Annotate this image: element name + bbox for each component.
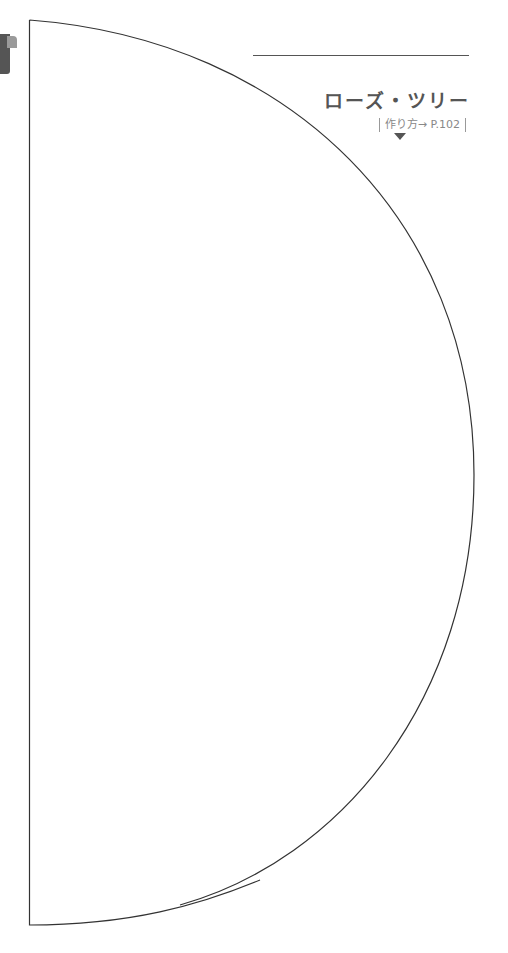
ref-bar-left — [379, 118, 380, 132]
ref-bar-right — [465, 118, 466, 132]
ref-text: 作り方→ P.102 — [385, 118, 460, 131]
half-circle-pattern — [0, 0, 508, 953]
pattern-reference: 作り方→ P.102 — [374, 115, 471, 132]
pattern-title: ローズ・ツリー — [324, 86, 470, 113]
down-triangle-icon — [394, 133, 406, 140]
header-rule — [253, 55, 469, 56]
